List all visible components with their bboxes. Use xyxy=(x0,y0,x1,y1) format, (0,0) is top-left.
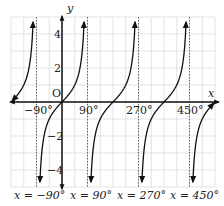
y-tick-label: −2 xyxy=(47,131,63,142)
y-tick-label: 2 xyxy=(54,63,61,74)
asymptote-label: x = 90° xyxy=(70,190,112,201)
x-tick-label: −90° xyxy=(24,105,53,116)
x-tick-label: 270° xyxy=(126,105,153,116)
x-tick-label: 450° xyxy=(177,105,204,116)
asymptote-label: x = 270° xyxy=(117,190,166,201)
asymptote-label: x = −90° xyxy=(14,190,65,201)
x-tick-label: 90° xyxy=(79,105,99,116)
y-tick-label: −4 xyxy=(47,165,63,176)
y-tick-label: 4 xyxy=(54,29,61,40)
asymptote-label: x = 450° xyxy=(170,190,219,201)
y-axis-label: y xyxy=(67,3,73,14)
x-axis-label: x xyxy=(208,88,214,99)
tangent-graph xyxy=(0,0,224,206)
origin-label: O xyxy=(52,88,61,99)
